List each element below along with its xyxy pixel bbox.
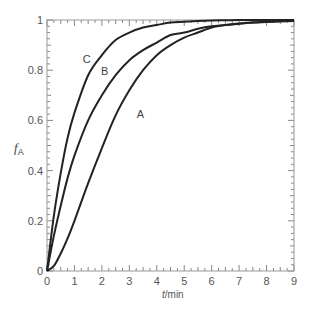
y-tick-label: 0.8 — [28, 64, 43, 76]
x-tick-label: 0 — [44, 275, 50, 287]
y-tick-label: 0.6 — [28, 114, 43, 126]
y-axis-label: fA — [14, 140, 24, 157]
x-tick-label: 5 — [181, 275, 187, 287]
y-tick-label: 0.2 — [28, 215, 43, 227]
tick-labels: 012345678900.20.40.60.81 — [28, 14, 297, 287]
y-tick-label: 0 — [37, 265, 43, 277]
x-axis-label: t/min — [162, 289, 184, 300]
y-axis-label-subscript: A — [18, 147, 24, 157]
y-tick-label: 0.4 — [28, 165, 43, 177]
x-tick-label: 1 — [71, 275, 77, 287]
curve-label-c: C — [83, 53, 91, 65]
x-tick-label: 2 — [99, 275, 105, 287]
x-tick-label: 7 — [236, 275, 242, 287]
x-tick-label: 4 — [154, 275, 160, 287]
curve-label-b: B — [101, 65, 108, 77]
y-tick-label: 1 — [37, 14, 43, 26]
curve-labels: CBA — [83, 53, 145, 120]
x-tick-label: 8 — [263, 275, 269, 287]
x-tick-label: 6 — [209, 275, 215, 287]
x-tick-label: 3 — [126, 275, 132, 287]
curve-label-a: A — [137, 108, 145, 120]
x-tick-label: 9 — [291, 275, 297, 287]
chart: 012345678900.20.40.60.81 CBA fA t/min — [0, 0, 309, 312]
